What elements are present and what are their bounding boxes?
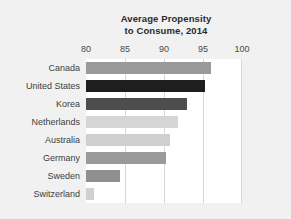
chart-title-line-2: to Consume, 2014 (86, 25, 246, 37)
category-label-netherlands: Netherlands (31, 113, 80, 131)
x-tick-label-85: 85 (120, 44, 130, 54)
category-label-sweden: Sweden (47, 167, 80, 185)
x-tick-label-95: 95 (198, 44, 208, 54)
bar-canada (86, 62, 211, 74)
category-label-united-states: United States (26, 77, 80, 95)
x-axis-tick-labels: 80859095100 (86, 44, 242, 57)
plot-area (86, 59, 242, 203)
x-tick-label-100: 100 (234, 44, 249, 54)
chart-title-line-1: Average Propensity (86, 13, 246, 25)
bar-sweden (86, 170, 120, 182)
bar-row (86, 185, 242, 203)
category-label-switzerland: Switzerland (33, 185, 80, 203)
category-label-germany: Germany (43, 149, 80, 167)
y-axis-category-labels: CanadaUnited StatesKoreaNetherlandsAustr… (6, 59, 83, 203)
bar-australia (86, 134, 170, 146)
bar-korea (86, 98, 187, 110)
bar-row (86, 77, 242, 95)
bar-united-states (86, 80, 205, 92)
bar-row (86, 149, 242, 167)
category-label-australia: Australia (45, 131, 80, 149)
bar-row (86, 167, 242, 185)
x-tick-label-90: 90 (159, 44, 169, 54)
chart-title: Average Propensity to Consume, 2014 (86, 13, 246, 36)
bar-row (86, 59, 242, 77)
bar-row (86, 131, 242, 149)
bar-switzerland (86, 188, 94, 200)
bar-germany (86, 152, 166, 164)
bar-netherlands (86, 116, 178, 128)
category-label-canada: Canada (48, 59, 80, 77)
bar-row (86, 95, 242, 113)
category-label-korea: Korea (56, 95, 80, 113)
bar-row (86, 113, 242, 131)
x-tick-label-80: 80 (81, 44, 91, 54)
chart-container: Average Propensity to Consume, 2014 8085… (0, 0, 291, 219)
